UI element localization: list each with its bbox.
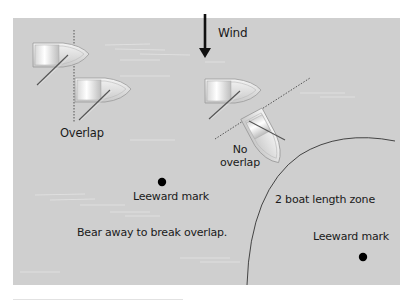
leeward-mark-left-label: Leeward mark — [133, 190, 209, 203]
wind-label: Wind — [218, 26, 247, 40]
no-overlap-label-line2: overlap — [220, 156, 260, 169]
boat-2 — [75, 78, 131, 120]
leeward-mark-right — [359, 253, 367, 261]
overlap-label: Overlap — [60, 126, 104, 140]
leeward-mark-left — [158, 178, 166, 186]
leeward-mark-right-label: Leeward mark — [313, 230, 389, 243]
zone-label: 2 boat length zone — [275, 193, 375, 206]
no-overlap-label-line1: No — [220, 143, 260, 156]
no-overlap-label: No overlap — [220, 143, 260, 169]
wind-arrow-icon — [199, 14, 211, 58]
diagram-artwork — [0, 0, 415, 301]
instruction-text: Bear away to break overlap. — [77, 226, 227, 239]
